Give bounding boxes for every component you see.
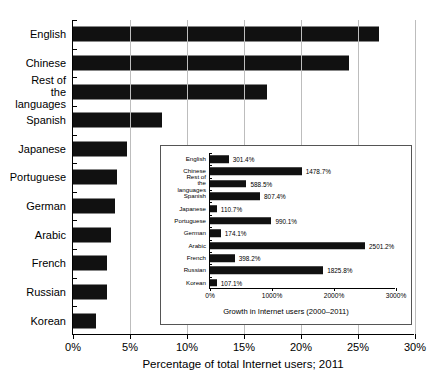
main-chart-x-tick-label: 5% — [122, 341, 138, 353]
inset-chart-bar-row: Arabic2501.2% — [210, 240, 395, 252]
inset-chart-bar — [210, 168, 302, 176]
inset-chart-bar-row: French398.2% — [210, 252, 395, 264]
inset-chart-bar — [210, 180, 246, 188]
main-chart-category-label: Portuguese — [10, 171, 66, 183]
main-chart-bar — [73, 199, 115, 214]
main-chart-category-label: Rest of the languages — [15, 74, 66, 110]
inset-chart-x-tick — [334, 288, 335, 291]
main-chart-x-tick — [415, 334, 416, 339]
main-chart-y-tick — [72, 220, 77, 221]
inset-chart-value-label: 301.4% — [233, 156, 255, 163]
main-chart-category-label: French — [32, 257, 66, 269]
inset-chart-y-tick — [209, 227, 212, 228]
inset-chart-x-tick — [272, 288, 273, 291]
inset-chart-value-label: 588.5% — [250, 180, 272, 187]
main-chart-x-tick-label: 10% — [176, 341, 198, 353]
main-chart-gridline — [130, 20, 131, 334]
inset-chart-value-label: 1825.8% — [327, 267, 352, 274]
inset-chart-bar — [210, 192, 260, 200]
main-chart-y-tick — [72, 306, 77, 307]
inset-chart-y-tick — [209, 215, 212, 216]
inset-chart-x-axis-label: Growth in Internet users (2000–2011) — [161, 307, 411, 316]
inset-chart-value-label: 1478.7% — [306, 168, 331, 175]
main-chart-gridline — [415, 20, 416, 334]
inset-chart-x-tick — [210, 288, 211, 291]
inset-chart-bar — [210, 217, 271, 225]
inset-chart-category-label: Spanish — [184, 193, 206, 200]
main-chart-category-label: English — [30, 28, 66, 40]
main-chart-category-label: Korean — [31, 315, 66, 327]
main-chart-category-label: Japanese — [18, 143, 66, 155]
main-chart-x-tick — [358, 334, 359, 339]
main-chart-x-tick-label: 15% — [233, 341, 255, 353]
main-chart-x-tick-label: 25% — [347, 341, 369, 353]
inset-chart-category-label: Rest of the languages — [177, 174, 206, 194]
main-chart-category-label: Spanish — [26, 114, 66, 126]
inset-chart-x-tick — [396, 288, 397, 291]
inset-chart-y-tick — [209, 178, 212, 179]
inset-chart-y-tick — [209, 153, 212, 154]
inset-chart-category-label: Arabic — [188, 242, 206, 249]
main-chart-y-tick — [72, 163, 77, 164]
inset-chart-panel: English301.4%Chinese1478.7%Rest of the l… — [160, 145, 412, 325]
inset-chart-x-tick-label: 3000% — [386, 292, 407, 299]
main-chart-x-tick — [130, 334, 131, 339]
main-chart-y-tick — [72, 106, 77, 107]
inset-chart-x-tick-label: 0% — [205, 292, 215, 299]
main-chart-y-tick — [72, 20, 77, 21]
inset-chart-x-tick-label: 2000% — [324, 292, 345, 299]
inset-chart-bar-row: German174.1% — [210, 227, 395, 239]
inset-chart-value-label: 2501.2% — [369, 242, 394, 249]
inset-chart-y-tick — [209, 240, 212, 241]
inset-chart-bar — [210, 279, 217, 287]
main-chart-bar — [73, 227, 111, 242]
main-chart-bar — [73, 256, 107, 271]
inset-chart-value-label: 110.7% — [221, 205, 242, 212]
inset-chart-bar — [210, 267, 323, 275]
inset-chart-y-tick — [209, 202, 212, 203]
main-chart-y-tick — [72, 49, 77, 50]
main-chart-x-tick — [244, 334, 245, 339]
main-chart-bar — [73, 285, 107, 300]
inset-chart-value-label: 990.1% — [275, 217, 297, 224]
main-chart-y-tick — [72, 249, 77, 250]
inset-chart-plot-area: English301.4%Chinese1478.7%Rest of the l… — [209, 153, 395, 289]
main-chart-bar — [73, 84, 267, 99]
main-chart-category-label: Russian — [26, 286, 66, 298]
inset-chart-bar — [210, 205, 217, 213]
inset-chart-category-label: English — [186, 156, 206, 163]
inset-chart-bar-row: Russian1825.8% — [210, 264, 395, 276]
main-chart-x-tick-label: 0% — [65, 341, 81, 353]
main-chart-y-tick — [72, 278, 77, 279]
inset-chart-y-tick — [209, 277, 212, 278]
main-chart-bar — [73, 27, 379, 42]
main-chart-x-tick — [187, 334, 188, 339]
inset-chart-bar-row: Portuguese990.1% — [210, 215, 395, 227]
main-chart-x-tick — [301, 334, 302, 339]
inset-chart-bar — [210, 230, 221, 238]
inset-chart-bar-row: Korean107.1% — [210, 277, 395, 289]
main-chart-bar — [73, 313, 96, 328]
main-chart-bar — [73, 170, 117, 185]
inset-chart-bar-row: Japanese110.7% — [210, 202, 395, 214]
inset-chart-value-label: 107.1% — [221, 279, 243, 286]
main-chart-category-label: Arabic — [35, 229, 66, 241]
main-chart-bar — [73, 113, 162, 128]
inset-chart-category-label: Korean — [186, 279, 206, 286]
inset-chart-value-label: 807.4% — [264, 193, 286, 200]
inset-chart-y-tick — [209, 264, 212, 265]
inset-chart-value-label: 398.2% — [239, 255, 261, 262]
inset-chart-bar — [210, 155, 229, 163]
inset-chart-x-tick-label: 1000% — [262, 292, 283, 299]
inset-chart-category-label: Portuguese — [174, 218, 206, 225]
main-chart-bar — [73, 55, 349, 70]
inset-chart-bar-row: Rest of the languages588.5% — [210, 178, 395, 190]
figure: EnglishChineseRest of the languagesSpani… — [0, 0, 448, 384]
main-chart-y-tick — [72, 135, 77, 136]
inset-chart-bar — [210, 254, 235, 262]
inset-chart-category-label: German — [184, 230, 206, 237]
main-chart-y-tick — [72, 192, 77, 193]
main-chart-category-label: German — [26, 200, 66, 212]
main-chart-x-tick — [73, 334, 74, 339]
main-chart-category-label: Chinese — [26, 57, 66, 69]
